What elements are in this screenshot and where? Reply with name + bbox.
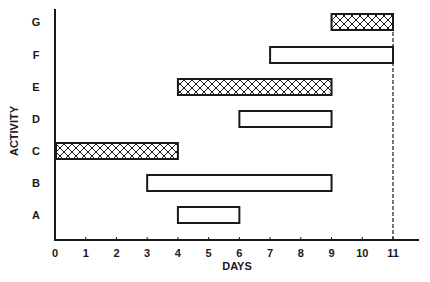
y-tick-label-d: D bbox=[32, 113, 40, 125]
y-tick-label-a: A bbox=[32, 209, 40, 221]
x-tick-label: 3 bbox=[144, 247, 150, 259]
y-tick-label-b: B bbox=[32, 177, 40, 189]
x-tick-label: 2 bbox=[113, 247, 119, 259]
y-axis-title: ACTIVITY bbox=[8, 105, 20, 156]
task-bar-a bbox=[178, 207, 239, 223]
x-tick-label: 6 bbox=[236, 247, 242, 259]
x-tick-label: 0 bbox=[52, 247, 58, 259]
x-tick-label: 1 bbox=[83, 247, 89, 259]
gantt-chart: 01234567891011 ABCDEFG DAYS ACTIVITY bbox=[0, 0, 430, 282]
x-tick-label: 5 bbox=[206, 247, 212, 259]
x-tick-label: 10 bbox=[356, 247, 368, 259]
y-tick-label-f: F bbox=[33, 49, 40, 61]
x-tick-label: 11 bbox=[387, 247, 399, 259]
task-bar-b bbox=[147, 175, 331, 191]
x-tick-label: 7 bbox=[267, 247, 273, 259]
task-bar-e bbox=[178, 79, 332, 95]
y-axis-labels: ABCDEFG bbox=[32, 16, 41, 221]
task-bar-g bbox=[332, 14, 393, 30]
y-tick-label-g: G bbox=[32, 16, 41, 28]
task-bar-c bbox=[56, 143, 178, 159]
y-tick-label-c: C bbox=[32, 145, 40, 157]
x-tick-label: 8 bbox=[298, 247, 304, 259]
y-tick-label-e: E bbox=[32, 81, 39, 93]
x-tick-label: 4 bbox=[175, 247, 182, 259]
task-bar-f bbox=[270, 47, 393, 63]
task-bar-d bbox=[239, 111, 331, 127]
x-tick-label: 9 bbox=[328, 247, 334, 259]
x-axis-title: DAYS bbox=[222, 260, 252, 272]
task-bars bbox=[56, 14, 393, 223]
